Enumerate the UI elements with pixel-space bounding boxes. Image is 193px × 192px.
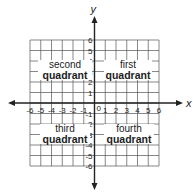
x-tick-label: 2	[114, 106, 119, 115]
second-quadrant-label: second quadrant	[38, 60, 92, 80]
x-axis-left-arrow-icon	[8, 100, 15, 106]
y-tick-label: 5	[88, 47, 93, 56]
y-axis-up-arrow-icon	[92, 16, 98, 23]
y-tick-label: -5	[85, 152, 93, 161]
fourth-quadrant-label: fourth quadrant	[104, 124, 154, 144]
y-tick-label: 1	[88, 89, 93, 98]
y-axis-down-arrow-icon	[92, 183, 98, 190]
x-tick-label: -5	[37, 106, 45, 115]
first-quadrant-label: first quadrant	[104, 60, 152, 80]
y-tick-label: -1	[85, 110, 93, 119]
x-tick-label: 1	[103, 106, 108, 115]
x-tick-label: -2	[69, 106, 77, 115]
y-tick-label: -6	[85, 162, 93, 171]
x-axis-right-arrow-icon	[176, 100, 183, 106]
x-axis-label: x	[185, 97, 192, 109]
y-axis-label: y	[90, 3, 98, 15]
coordinate-grid: xy-6-5-4-3-2-1123456654321-1-2-3-4-5-60	[0, 0, 193, 192]
x-tick-label: 5	[146, 106, 151, 115]
x-tick-label: -4	[48, 106, 56, 115]
x-tick-label: -3	[59, 106, 67, 115]
x-tick-label: 4	[135, 106, 140, 115]
origin-label: 0	[97, 104, 102, 113]
x-tick-label: 3	[125, 106, 130, 115]
coordinate-plane: xy-6-5-4-3-2-1123456654321-1-2-3-4-5-60 …	[0, 0, 193, 192]
x-tick-label: -6	[26, 106, 34, 115]
third-quadrant-label: third quadrant	[40, 124, 90, 144]
x-tick-label: 6	[157, 106, 162, 115]
y-tick-label: 6	[88, 36, 93, 45]
